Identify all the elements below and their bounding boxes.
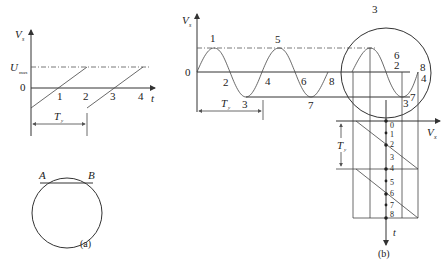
tick-label-4: 4 bbox=[138, 90, 144, 102]
wave-label-8: 8 bbox=[329, 75, 335, 87]
wave-label-1: 1 bbox=[210, 32, 216, 44]
time-point-6: 6 bbox=[390, 189, 394, 198]
point-b-label: B bbox=[88, 169, 95, 181]
wave-label-3: 3 bbox=[242, 98, 248, 110]
point-a-label: A bbox=[38, 169, 46, 181]
wave-label-7: 7 bbox=[308, 99, 314, 111]
screen-circle bbox=[32, 178, 102, 248]
caption-a: (a) bbox=[80, 238, 91, 250]
t-axis-label: t bbox=[151, 92, 155, 104]
time-points bbox=[384, 119, 388, 220]
circle-label-3b: 3 bbox=[403, 97, 409, 109]
time-point-1: 1 bbox=[390, 130, 394, 139]
time-point-7: 7 bbox=[390, 201, 394, 210]
period-label: T bbox=[221, 97, 228, 109]
caption-b: (b) bbox=[378, 248, 390, 260]
circle-label-4: 4 bbox=[421, 72, 427, 84]
wave-label-4: 4 bbox=[265, 75, 271, 87]
tick-label-3: 3 bbox=[110, 90, 116, 102]
time-point-8: 8 bbox=[390, 210, 394, 219]
circle-label-top: 3 bbox=[372, 3, 378, 15]
period-label-vertical: T bbox=[337, 139, 344, 151]
time-point-4: 4 bbox=[390, 164, 394, 173]
wave-label-6: 6 bbox=[301, 75, 307, 87]
wave-label-5: 5 bbox=[275, 33, 281, 45]
period-sub: y bbox=[60, 118, 64, 123]
wave-label-2: 2 bbox=[223, 76, 229, 88]
zero-label: 0 bbox=[185, 66, 191, 78]
circle-label-7: 7 bbox=[410, 91, 416, 103]
time-point-0: 0 bbox=[390, 121, 394, 130]
period-sub: y bbox=[227, 105, 231, 110]
zero-label: 0 bbox=[20, 81, 26, 93]
t-axis-label: t bbox=[393, 227, 396, 238]
time-point-3: 3 bbox=[390, 153, 394, 162]
panel-a: V s U max 0 t 1 2 3 4 T y A B (a) bbox=[10, 28, 155, 250]
tick-label-1: 1 bbox=[57, 90, 63, 102]
vs-axis-sub: s bbox=[189, 22, 192, 28]
time-point-2: 2 bbox=[390, 140, 394, 149]
umax-label: U bbox=[10, 61, 19, 73]
vs-axis-sub: s bbox=[22, 36, 25, 42]
circle-label-2: 2 bbox=[394, 59, 400, 71]
umax-sub: max bbox=[19, 70, 28, 75]
time-point-5: 5 bbox=[390, 178, 394, 187]
tick-label-2: 2 bbox=[83, 90, 89, 102]
panel-b: V s 0 1 2 3 4 5 6 7 8 T y 3 6 2 8 4 3 7 bbox=[182, 3, 440, 260]
period-label: T bbox=[54, 110, 61, 122]
deflection-diagram: V s U max 0 t 1 2 3 4 T y A B (a) V s 0 bbox=[0, 0, 446, 261]
vx-axis-sub: x bbox=[433, 134, 437, 140]
